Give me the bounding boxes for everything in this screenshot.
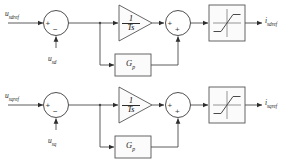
integral-gain-label-d: 1 Ts — [122, 15, 140, 33]
output-summer-sign-a-d: + — [168, 20, 173, 28]
output-label-q: isqref — [265, 99, 277, 109]
proportional-gain-label-d: Gp — [126, 59, 135, 70]
error-summer-sign-fb-q: − — [53, 108, 58, 116]
output-summer-sign-b-q: + — [175, 108, 180, 116]
proportional-gain-label-q: Gp — [126, 141, 135, 152]
error-summer-sign-in-q: + — [46, 102, 51, 110]
feedback-label-d: usd — [48, 55, 56, 65]
input-label-q: usqref — [5, 92, 19, 102]
output-label-d: isdref — [265, 17, 277, 27]
diagram-canvas: usdref + − usd 1 Ts Gp + + isdref usqref… — [0, 0, 283, 165]
error-summer-sign-in-d: + — [46, 20, 51, 28]
output-summer-sign-a-q: + — [168, 102, 173, 110]
output-summer-sign-b-d: + — [175, 26, 180, 34]
diagram-svg — [0, 0, 283, 165]
feedback-label-q: usq — [48, 137, 56, 147]
input-label-d: usdref — [5, 10, 19, 20]
integral-gain-label-q: 1 Ts — [122, 97, 140, 115]
error-summer-sign-fb-d: − — [53, 26, 58, 34]
